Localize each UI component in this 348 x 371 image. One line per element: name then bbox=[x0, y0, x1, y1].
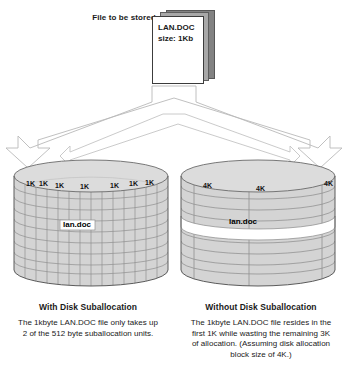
block-label-4k: 4K bbox=[203, 182, 212, 190]
diagram-canvas: File to be stored LAN.DOC size: 1Kb bbox=[0, 0, 348, 371]
caption-line: of allocation. (Assuming disk allocation bbox=[176, 339, 346, 350]
caption-line: 2 of the 512 byte suballocation units. bbox=[2, 329, 174, 340]
caption-line: The 1kbyte LAN.DOC file only takes up bbox=[2, 318, 174, 329]
caption-body: The 1kbyte LAN.DOC file resides in the f… bbox=[176, 318, 346, 360]
document-sheet-front: LAN.DOC size: 1Kb bbox=[152, 16, 204, 84]
stored-file-label: lan.doc bbox=[229, 217, 257, 226]
file-label-line-1: File to be bbox=[92, 13, 128, 22]
document-name: LAN.DOC bbox=[158, 23, 204, 34]
file-to-be-stored-label: File to be stored bbox=[88, 12, 160, 23]
caption-body: The 1kbyte LAN.DOC file only takes up 2 … bbox=[2, 318, 174, 339]
caption-line: The 1kbyte LAN.DOC file resides in the bbox=[176, 318, 346, 329]
caption-without-suballocation: Without Disk Suballocation The 1kbyte LA… bbox=[176, 302, 346, 360]
block-label-1k: 1K bbox=[129, 180, 138, 188]
block-label-1k: 1K bbox=[39, 180, 48, 188]
caption-title: With Disk Suballocation bbox=[2, 302, 174, 313]
block-label-1k: 1K bbox=[55, 182, 64, 190]
caption-with-suballocation: With Disk Suballocation The 1kbyte LAN.D… bbox=[2, 302, 174, 339]
caption-line: block size of 4K.) bbox=[176, 350, 346, 361]
disk-cylinder-with-suballocation: 1K 1K 1K 1K 1K 1K 1K lan.doc bbox=[12, 158, 170, 290]
caption-title: Without Disk Suballocation bbox=[176, 302, 346, 313]
block-label-4k: 4K bbox=[324, 180, 333, 188]
document-size: size: 1Kb bbox=[158, 34, 204, 45]
stored-file-label: lan.doc bbox=[63, 220, 91, 229]
block-label-1k: 1K bbox=[110, 182, 119, 190]
disk-cylinder-without-suballocation: 4K 4K 4K lan.doc bbox=[179, 158, 337, 290]
caption-line: first 1K while wasting the remaining 3K bbox=[176, 329, 346, 340]
block-label-1k: 1K bbox=[145, 179, 154, 187]
document-stack: LAN.DOC size: 1Kb bbox=[152, 10, 216, 84]
block-label-1k: 1K bbox=[26, 180, 35, 188]
block-label-4k: 4K bbox=[256, 185, 265, 193]
footer-note bbox=[18, 358, 198, 368]
block-label-1k: 1K bbox=[80, 183, 89, 191]
document-text: LAN.DOC size: 1Kb bbox=[158, 23, 204, 44]
